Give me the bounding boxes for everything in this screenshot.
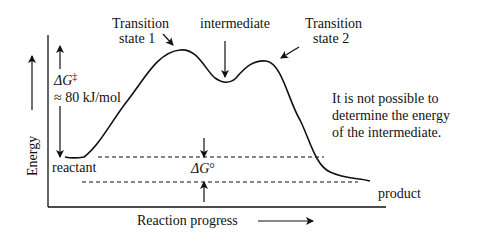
ts1-label-line1: Transition <box>112 16 169 31</box>
activation-energy-symbol: ΔG‡ <box>53 71 77 88</box>
reactant-label: reactant <box>52 160 96 175</box>
activation-energy-value: ≈ 80 kJ/mol <box>54 90 121 105</box>
note-line1: It is not possible to <box>332 91 439 106</box>
ts1-arrow-icon <box>163 34 173 45</box>
intermediate-label: intermediate <box>200 16 270 31</box>
ts2-arrow-icon <box>281 47 299 58</box>
x-axis-label: Reaction progress <box>137 213 238 228</box>
reaction-curve <box>65 50 370 181</box>
delta-g-standard-label: ΔG° <box>190 161 215 176</box>
energy-diagram: Energy Reaction progress ΔG‡ ≈ 80 kJ/mol… <box>0 0 478 242</box>
ts2-label-line1: Transition <box>305 16 362 31</box>
note-line3: of the intermediate. <box>332 125 441 140</box>
diagram-svg: Energy Reaction progress ΔG‡ ≈ 80 kJ/mol… <box>0 0 478 242</box>
product-label: product <box>378 186 421 201</box>
note-line2: determine the energy <box>332 108 450 123</box>
y-axis-label: Energy <box>25 136 40 176</box>
ts1-label-line2: state 1 <box>119 31 155 46</box>
ts2-label-line2: state 2 <box>313 31 349 46</box>
